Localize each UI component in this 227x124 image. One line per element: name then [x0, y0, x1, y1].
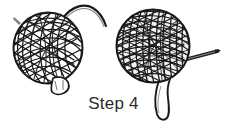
- step-caption: Step 4: [0, 94, 227, 114]
- illustration-canvas: Step 4: [0, 0, 227, 124]
- knot-tail-left: [51, 77, 69, 94]
